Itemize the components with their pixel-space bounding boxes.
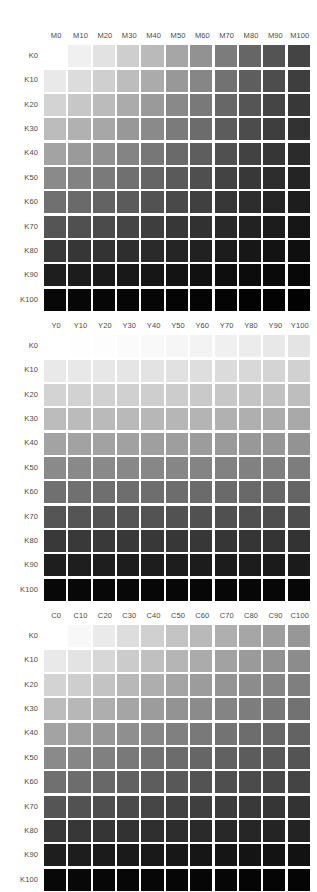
patch-m90-k30 — [263, 118, 285, 140]
patch-m60-k60 — [190, 191, 212, 213]
row-label-k90: K90 — [0, 553, 38, 577]
patch-c100-k10 — [288, 650, 310, 672]
patch-y60-k30 — [190, 408, 212, 430]
patch-y100-k50 — [288, 457, 310, 479]
row-label-k0: K0 — [0, 44, 38, 68]
patch-row: K60 — [0, 770, 317, 794]
patch-m90-k60 — [263, 191, 285, 213]
patch-row: K20 — [0, 93, 317, 117]
patch-c100-k60 — [288, 771, 310, 793]
column-header-m40: M40 — [141, 28, 165, 44]
row-label-k80: K80 — [0, 239, 38, 263]
patch-y90-k30 — [263, 408, 285, 430]
patch-row: K50 — [0, 166, 317, 190]
patch-m100-k100 — [288, 289, 310, 311]
patch-m30-k10 — [117, 70, 139, 92]
patch-row: K10 — [0, 358, 317, 382]
patch-m70-k30 — [215, 118, 237, 140]
patch-row: K20 — [0, 673, 317, 697]
patch-y40-k70 — [141, 506, 163, 528]
patch-c80-k50 — [239, 747, 261, 769]
patch-m50-k100 — [166, 289, 188, 311]
patch-y10-k0 — [68, 335, 90, 357]
patch-y30-k90 — [117, 554, 139, 576]
patch-y30-k50 — [117, 457, 139, 479]
patch-row: K80 — [0, 529, 317, 553]
patch-c70-k20 — [215, 674, 237, 696]
patch-row: K40 — [0, 721, 317, 745]
patch-m0-k10 — [44, 70, 66, 92]
patch-c20-k80 — [93, 820, 115, 842]
column-header-c60: C60 — [190, 608, 214, 624]
column-header-m0: M0 — [44, 28, 68, 44]
patch-c80-k20 — [239, 674, 261, 696]
patch-m90-k80 — [263, 240, 285, 262]
patch-m40-k40 — [141, 143, 163, 165]
column-header-row: Y0Y10Y20Y30Y40Y50Y60Y70Y80Y90Y100 — [44, 318, 312, 334]
patch-c20-k40 — [93, 723, 115, 745]
column-header-y90: Y90 — [263, 318, 287, 334]
cyan-chart: C0C10C20C30C40C50C60C70C80C90C100K0K10K2… — [0, 608, 317, 892]
patch-m40-k80 — [141, 240, 163, 262]
row-label-k90: K90 — [0, 843, 38, 867]
row-label-k70: K70 — [0, 795, 38, 819]
patch-y100-k100 — [288, 579, 310, 601]
patch-m30-k100 — [117, 289, 139, 311]
patch-y100-k60 — [288, 481, 310, 503]
patch-m70-k80 — [215, 240, 237, 262]
patch-row: K30 — [0, 407, 317, 431]
patch-m90-k20 — [263, 94, 285, 116]
patch-y100-k0 — [288, 335, 310, 357]
patch-y90-k0 — [263, 335, 285, 357]
patch-y20-k10 — [93, 360, 115, 382]
patch-m0-k90 — [44, 264, 66, 286]
patch-y40-k100 — [141, 579, 163, 601]
patch-c10-k20 — [68, 674, 90, 696]
row-label-k10: K10 — [0, 358, 38, 382]
patch-c0-k80 — [44, 820, 66, 842]
row-label-k50: K50 — [0, 746, 38, 770]
column-header-m20: M20 — [93, 28, 117, 44]
patch-m90-k50 — [263, 167, 285, 189]
patch-m100-k60 — [288, 191, 310, 213]
column-header-m80: M80 — [239, 28, 263, 44]
patch-m40-k0 — [141, 45, 163, 67]
column-header-c70: C70 — [215, 608, 239, 624]
patch-y40-k10 — [141, 360, 163, 382]
patch-c30-k90 — [117, 844, 139, 866]
patch-c10-k60 — [68, 771, 90, 793]
row-label-k30: K30 — [0, 117, 38, 141]
patch-c40-k100 — [141, 869, 163, 891]
patch-y50-k20 — [166, 384, 188, 406]
patch-m50-k0 — [166, 45, 188, 67]
patch-c10-k80 — [68, 820, 90, 842]
patch-c10-k100 — [68, 869, 90, 891]
patch-c0-k0 — [44, 625, 66, 647]
patch-m90-k40 — [263, 143, 285, 165]
patch-c30-k30 — [117, 698, 139, 720]
patch-m50-k20 — [166, 94, 188, 116]
patch-c70-k50 — [215, 747, 237, 769]
patch-c60-k80 — [190, 820, 212, 842]
patch-m100-k0 — [288, 45, 310, 67]
row-label-k70: K70 — [0, 215, 38, 239]
patch-y50-k90 — [166, 554, 188, 576]
patch-m90-k90 — [263, 264, 285, 286]
patch-m20-k50 — [93, 167, 115, 189]
row-label-k30: K30 — [0, 407, 38, 431]
patch-m100-k90 — [288, 264, 310, 286]
patch-c40-k10 — [141, 650, 163, 672]
patch-c40-k60 — [141, 771, 163, 793]
patch-m100-k30 — [288, 118, 310, 140]
patch-m30-k0 — [117, 45, 139, 67]
patch-row: K30 — [0, 697, 317, 721]
patch-row: K100 — [0, 868, 317, 892]
patch-y0-k80 — [44, 530, 66, 552]
patch-m90-k10 — [263, 70, 285, 92]
patch-m20-k40 — [93, 143, 115, 165]
patch-y50-k0 — [166, 335, 188, 357]
column-header-c20: C20 — [93, 608, 117, 624]
row-label-k80: K80 — [0, 529, 38, 553]
patch-m60-k80 — [190, 240, 212, 262]
patch-m80-k30 — [239, 118, 261, 140]
